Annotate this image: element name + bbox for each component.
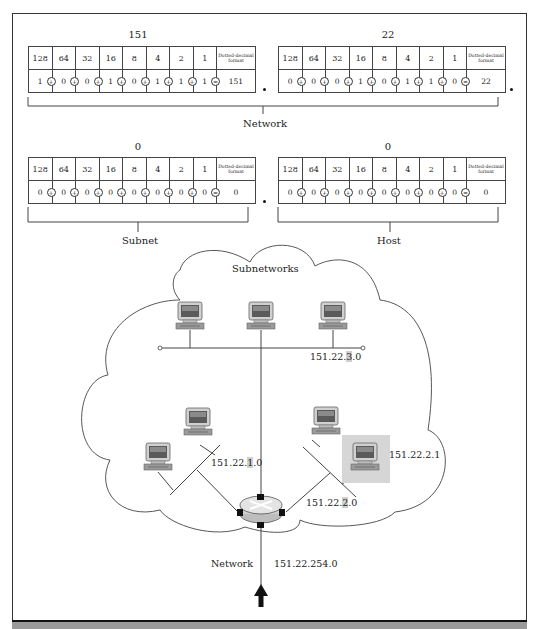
- plus-icon: +: [164, 188, 173, 197]
- plus-icon: +: [188, 77, 197, 86]
- subnet-2-prefix: 151.22.: [306, 497, 342, 508]
- plus-icon: +: [70, 77, 79, 86]
- plus-icon: +: [367, 77, 376, 86]
- network-diagram: [0, 0, 539, 629]
- subnet-2-address: 151.22.2.0: [306, 497, 357, 508]
- plus-icon: +: [70, 188, 79, 197]
- plus-icon: +: [164, 77, 173, 86]
- plus-icon: +: [391, 188, 400, 197]
- plus-icon: +: [391, 77, 400, 86]
- plus-icon: +: [297, 77, 306, 86]
- plus-icon: +: [367, 188, 376, 197]
- plus-icon: +: [47, 188, 56, 197]
- subnet-3-address: 151.22.3.0: [310, 351, 361, 362]
- uplink-address: 151.22.254.0: [274, 558, 337, 569]
- host-address: 151.22.2.1: [389, 449, 440, 460]
- plus-icon: +: [94, 77, 103, 86]
- plus-icon: +: [438, 77, 447, 86]
- subnet-1-address: 151.22.1.0: [211, 457, 262, 468]
- subnet-3-prefix: 151.22.: [310, 351, 346, 362]
- subnet-1-suffix: .0: [253, 457, 262, 468]
- subnet-bracket: [28, 207, 248, 222]
- cloud-label: Subnetworks: [232, 263, 299, 274]
- network-bracket: [28, 97, 498, 106]
- plus-icon: +: [320, 77, 329, 86]
- subnet-1-prefix: 151.22.: [211, 457, 247, 468]
- plus-icon: +: [414, 77, 423, 86]
- equals-icon: =: [211, 77, 220, 86]
- plus-icon: +: [414, 188, 423, 197]
- equals-icon: =: [461, 188, 470, 197]
- equals-icon: =: [461, 77, 470, 86]
- plus-icon: +: [117, 77, 126, 86]
- plus-icon: +: [47, 77, 56, 86]
- plus-icon: +: [188, 188, 197, 197]
- plus-icon: +: [141, 188, 150, 197]
- equals-icon: =: [211, 188, 220, 197]
- uplink-label: Network: [211, 558, 253, 569]
- plus-icon: +: [320, 188, 329, 197]
- plus-icon: +: [438, 188, 447, 197]
- plus-icon: +: [141, 77, 150, 86]
- plus-icon: +: [344, 77, 353, 86]
- host-bracket: [278, 207, 498, 222]
- up-arrow-icon: [254, 584, 268, 607]
- subnet-2-suffix: .0: [348, 497, 357, 508]
- subnet-3-suffix: .0: [352, 351, 361, 362]
- cloud-outline: [82, 245, 446, 532]
- plus-icon: +: [117, 188, 126, 197]
- plus-icon: +: [94, 188, 103, 197]
- plus-icon: +: [297, 188, 306, 197]
- plus-icon: +: [344, 188, 353, 197]
